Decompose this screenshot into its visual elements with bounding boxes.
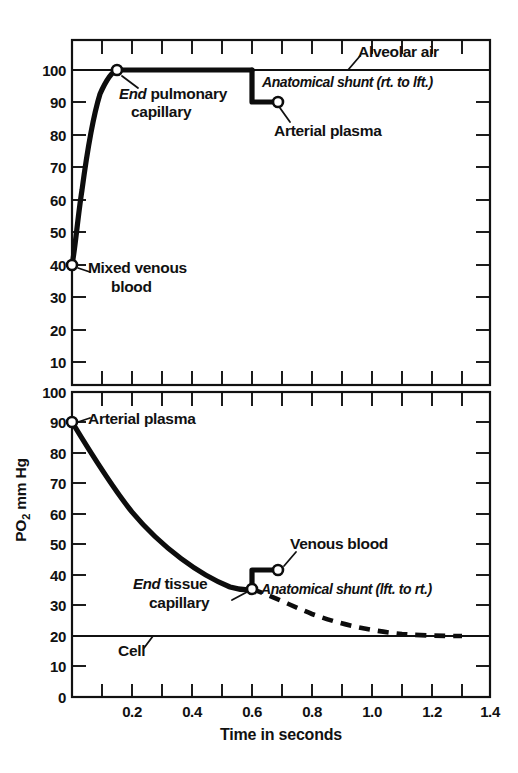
label-end-tissue-capillary-line1: End tissue	[133, 575, 208, 592]
label-anatomical-shunt-lft-to-rt: Anatomical shunt (lft. to rt.)	[260, 581, 433, 597]
xtick-label-0-6: 0.6	[242, 703, 262, 720]
bottom-ytick-label-0: 0	[58, 689, 66, 706]
top-ytick-label-90: 90	[50, 94, 66, 111]
bottom-ytick-label-20: 20	[50, 628, 66, 645]
xtick-label-0-4: 0.4	[182, 703, 203, 720]
label-end-pulmonary-capillary-line1: End pulmonary	[119, 85, 228, 102]
top-ytick-label-50: 50	[50, 224, 66, 241]
marker-venous-blood[interactable]	[273, 565, 283, 575]
label-end-pulmonary-capillary-line2: capillary	[131, 103, 192, 120]
label-arterial-plasma-top: Arterial plasma	[274, 122, 382, 139]
y-axis-title-po: PO	[12, 520, 29, 542]
bottom-ytick-label-70: 70	[50, 475, 66, 492]
xtick-label-1-0: 1.0	[362, 703, 382, 720]
top-ytick-label-40: 40	[50, 257, 66, 274]
bottom-ytick-label-60: 60	[50, 506, 66, 523]
label-epc-end: End	[119, 85, 148, 102]
xtick-label-1-4: 1.4	[480, 703, 501, 720]
top-panel: 100 90 80 70 60 50 40 30 20 10 Alveolar …	[42, 40, 490, 385]
bottom-ytick-label-100: 100	[42, 384, 66, 401]
svg-text:PO2 mm Hg: PO2 mm Hg	[12, 458, 32, 542]
y-axis-title: PO2 mm Hg	[12, 458, 32, 542]
x-axis-title: Time in seconds	[220, 726, 342, 743]
label-epc-pulmonary: pulmonary	[146, 85, 227, 102]
marker-mixed-venous-blood[interactable]	[67, 260, 77, 270]
marker-end-tissue-capillary[interactable]	[247, 584, 257, 594]
bottom-ytick-label-10: 10	[50, 658, 66, 675]
marker-arterial-plasma-top[interactable]	[273, 97, 283, 107]
po2-time-figure: 100 90 80 70 60 50 40 30 20 10 Alveolar …	[0, 0, 518, 773]
y-axis-title-units: mm Hg	[12, 458, 29, 514]
top-ytick-label-30: 30	[50, 289, 66, 306]
bottom-ytick-label-80: 80	[50, 445, 66, 462]
marker-end-pulmonary-capillary[interactable]	[112, 65, 122, 75]
top-ytick-label-70: 70	[50, 159, 66, 176]
label-alveolar-air: Alveolar air	[358, 43, 439, 60]
bottom-panel: 100 90 80 70 60 50 40 30 20 10 0 Arteria…	[42, 384, 501, 720]
top-ytick-label-80: 80	[50, 127, 66, 144]
figure-root: 100 90 80 70 60 50 40 30 20 10 Alveolar …	[0, 0, 518, 773]
xtick-label-0-2: 0.2	[122, 703, 142, 720]
label-cell: Cell	[118, 642, 145, 659]
top-ytick-label-60: 60	[50, 192, 66, 209]
bottom-ytick-label-90: 90	[50, 414, 66, 431]
top-ytick-label-100: 100	[42, 62, 66, 79]
label-etc-end: End	[133, 575, 162, 592]
label-end-tissue-capillary-line2: capillary	[149, 594, 210, 611]
label-mixed-venous-blood-line1: Mixed venous	[88, 259, 187, 276]
bottom-ytick-label-40: 40	[50, 567, 66, 584]
label-etc-tissue: tissue	[160, 575, 208, 592]
bottom-ytick-label-50: 50	[50, 536, 66, 553]
top-ytick-label-20: 20	[50, 322, 66, 339]
bottom-ytick-label-30: 30	[50, 597, 66, 614]
xtick-label-1-2: 1.2	[422, 703, 442, 720]
top-ytick-label-10: 10	[50, 354, 66, 371]
label-arterial-plasma-bottom: Arterial plasma	[88, 410, 196, 427]
label-anatomical-shunt-rt-to-lft: Anatomical shunt (rt. to lft.)	[261, 74, 434, 90]
label-venous-blood: Venous blood	[290, 535, 388, 552]
xtick-label-0-8: 0.8	[302, 703, 322, 720]
marker-arterial-plasma-bottom[interactable]	[67, 417, 77, 427]
label-mixed-venous-blood-line2: blood	[111, 278, 152, 295]
